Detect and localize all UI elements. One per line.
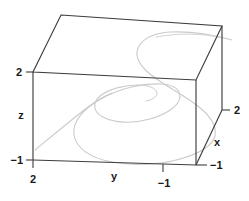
- y-axis-tick-left-label: 2: [30, 173, 36, 185]
- three-d-box-plot: 2 −1 z 2 −1 y 2 −1 x: [0, 0, 249, 201]
- trajectory-tail-path: [35, 93, 112, 150]
- z-axis-label: z: [18, 109, 24, 121]
- x-axis-tick-top-label: 2: [234, 104, 240, 116]
- trajectory-loop-2-path: [95, 85, 180, 122]
- trajectory-curve-group: [35, 32, 232, 165]
- box-top-face-edges: [33, 15, 222, 80]
- trajectory-loop-1-path: [74, 84, 180, 165]
- box-wireframe-group: [33, 15, 222, 165]
- y-axis-label: y: [111, 170, 118, 182]
- figure-container: 2 −1 z 2 −1 y 2 −1 x: [0, 0, 249, 201]
- z-axis-tick-bottom-label: −1: [10, 154, 23, 166]
- x-axis-tick-bottom-label: −1: [210, 159, 223, 171]
- trajectory-loop-3-path: [138, 85, 157, 101]
- x-axis-label: x: [214, 136, 221, 148]
- z-axis-tick-top-label: 2: [16, 66, 22, 78]
- trajectory-top-face-arc-path: [156, 34, 222, 38]
- y-axis-tick-right-label: −1: [158, 177, 171, 189]
